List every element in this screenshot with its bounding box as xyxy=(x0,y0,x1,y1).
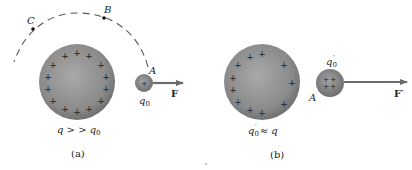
point-a-label: A xyxy=(148,65,156,76)
svg-text:+: + xyxy=(85,51,93,61)
svg-text:+: + xyxy=(102,72,110,82)
svg-text:+: + xyxy=(61,104,69,114)
svg-text:+: + xyxy=(44,72,52,82)
svg-text:+: + xyxy=(44,84,52,94)
test-charge-label: q0 xyxy=(139,95,150,108)
force-label-f-prime: F′ xyxy=(394,88,404,99)
svg-text:+: + xyxy=(280,99,288,109)
test-charge-plus-signs-b: + + + + xyxy=(323,75,337,91)
caption-a: (a) xyxy=(71,148,85,159)
svg-text:+: + xyxy=(234,97,242,107)
svg-text:+: + xyxy=(234,60,242,70)
svg-text:+: + xyxy=(73,48,81,58)
point-b-dot xyxy=(102,16,106,20)
point-c-label: C xyxy=(27,15,35,26)
panel-a: B C A + + + + + + + + + + + + + + + F q0 xyxy=(14,4,183,159)
svg-text:+: + xyxy=(49,60,57,70)
svg-text:+: + xyxy=(97,96,105,106)
svg-text:+: + xyxy=(73,107,81,117)
svg-text:+: + xyxy=(97,60,105,70)
point-b-label: B xyxy=(103,4,111,15)
electric-force-diagram: B C A + + + + + + + + + + + + + + + F q0 xyxy=(0,0,412,170)
svg-text:+: + xyxy=(85,104,93,114)
svg-text:+: + xyxy=(246,52,254,62)
charge-relation-label: q > > q0 xyxy=(57,124,101,137)
svg-text:+: + xyxy=(61,51,69,61)
charge-relation-label-b: q0′ ≈ q xyxy=(248,123,278,138)
svg-text:+: + xyxy=(229,85,237,95)
svg-text:+: + xyxy=(330,82,337,91)
svg-text:+: + xyxy=(280,60,288,70)
panel-b: + + + + + + + + + + + q0′ + + + + A F′ q… xyxy=(224,44,407,160)
svg-text:+: + xyxy=(229,73,237,83)
test-charge-label-b: q0′ xyxy=(326,54,337,69)
svg-text:+: + xyxy=(102,84,110,94)
svg-text:+: + xyxy=(246,105,254,115)
caption-b: (b) xyxy=(270,149,284,160)
svg-text:+: + xyxy=(323,82,330,91)
svg-text:+: + xyxy=(258,49,266,59)
svg-text:+: + xyxy=(288,78,296,88)
svg-text:+: + xyxy=(258,108,266,118)
svg-text:+: + xyxy=(49,96,57,106)
force-label-f: F xyxy=(171,88,178,99)
point-c-dot xyxy=(31,27,35,31)
test-charge-plus: + xyxy=(141,79,148,88)
stray-dot xyxy=(205,163,207,165)
point-a-label-b: A xyxy=(308,92,316,103)
